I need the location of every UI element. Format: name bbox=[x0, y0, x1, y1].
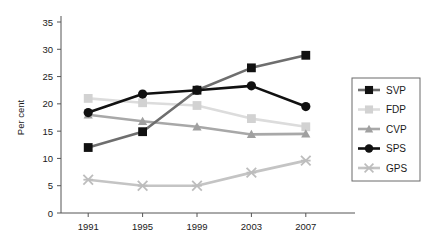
y-tick-label: 30 bbox=[42, 44, 53, 55]
legend-label: SPS bbox=[386, 143, 406, 154]
data-point-marker bbox=[365, 105, 373, 113]
legend-label: SVP bbox=[386, 85, 406, 96]
x-tick-label: 1995 bbox=[132, 221, 153, 232]
data-point-marker bbox=[247, 81, 256, 90]
y-tick-label: 35 bbox=[42, 17, 53, 28]
y-tick-label: 10 bbox=[42, 153, 53, 164]
data-point-marker bbox=[365, 86, 373, 94]
data-point-marker bbox=[138, 89, 147, 98]
x-tick-label: 1999 bbox=[186, 221, 207, 232]
y-axis-title: Per cent bbox=[15, 99, 26, 135]
y-axis-ticks bbox=[57, 22, 61, 213]
legend: SVPFDPCVPSPSGPS bbox=[352, 78, 420, 181]
x-axis: 19911995199920032007 bbox=[61, 213, 355, 232]
data-point-marker bbox=[301, 51, 310, 60]
series-sps bbox=[84, 81, 311, 117]
data-point-marker bbox=[192, 86, 201, 95]
data-point-marker bbox=[301, 156, 311, 166]
legend-label: GPS bbox=[386, 163, 407, 174]
data-point-marker bbox=[193, 101, 202, 110]
data-point-marker bbox=[83, 175, 93, 185]
data-point-marker bbox=[84, 94, 93, 103]
series-gps bbox=[83, 156, 310, 191]
y-axis: 05101520253035 bbox=[42, 16, 61, 219]
data-point-marker bbox=[138, 181, 148, 191]
data-point-marker bbox=[84, 108, 93, 117]
line-chart-figure: 05101520253035 19911995199920032007 Per … bbox=[0, 0, 437, 249]
data-point-marker bbox=[138, 127, 147, 136]
x-tick-label: 1991 bbox=[78, 221, 99, 232]
data-point-marker bbox=[301, 102, 310, 111]
y-tick-label: 15 bbox=[42, 126, 53, 137]
data-point-marker bbox=[138, 98, 147, 107]
chart-canvas: 05101520253035 19911995199920032007 Per … bbox=[0, 0, 437, 249]
y-axis-tick-labels: 05101520253035 bbox=[42, 17, 53, 219]
x-axis-ticks bbox=[88, 213, 306, 217]
data-point-marker bbox=[365, 144, 373, 152]
series-cvp bbox=[84, 110, 311, 138]
data-point-marker bbox=[247, 168, 257, 178]
series-layer bbox=[83, 51, 310, 191]
legend-label: CVP bbox=[386, 124, 407, 135]
y-tick-label: 5 bbox=[48, 180, 53, 191]
x-tick-label: 2007 bbox=[295, 221, 316, 232]
x-axis-tick-labels: 19911995199920032007 bbox=[78, 221, 317, 232]
x-tick-label: 2003 bbox=[241, 221, 262, 232]
legend-label: FDP bbox=[386, 104, 406, 115]
y-tick-label: 20 bbox=[42, 98, 53, 109]
data-point-marker bbox=[247, 114, 256, 123]
data-point-marker bbox=[192, 181, 202, 191]
y-tick-label: 25 bbox=[42, 71, 53, 82]
data-point-marker bbox=[247, 63, 256, 72]
y-tick-label: 0 bbox=[48, 208, 53, 219]
data-point-marker bbox=[84, 143, 93, 152]
